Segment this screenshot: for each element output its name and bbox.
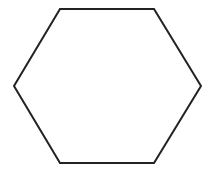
hexagon-shape bbox=[14, 9, 201, 163]
diagram-canvas bbox=[0, 0, 206, 181]
